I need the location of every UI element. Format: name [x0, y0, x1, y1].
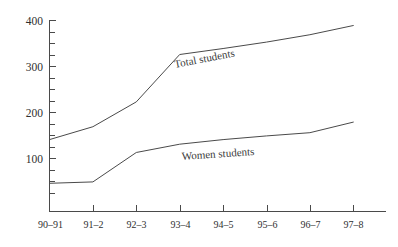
x-tick-label: 96–7 — [301, 219, 321, 230]
x-axis-tick-labels: 90–9191–292–393–494–595–696–797–8 — [38, 219, 364, 230]
x-tick-label: 90–91 — [38, 219, 63, 230]
x-tick-label: 92–3 — [127, 219, 147, 230]
series-label-total-students: Total students — [173, 46, 235, 69]
x-axis: 90–9191–292–393–494–595–696–797–8 — [38, 205, 386, 230]
y-axis-tick-labels: 100200300400 — [26, 15, 44, 165]
x-tick-label: 94–5 — [214, 219, 234, 230]
y-axis: 100200300400 — [26, 15, 56, 212]
x-tick-label: 95–6 — [258, 219, 278, 230]
line-chart: 100200300400 90–9191–292–393–494–595–696… — [0, 0, 398, 247]
y-tick-label: 400 — [26, 15, 44, 27]
y-tick-label: 200 — [26, 107, 44, 119]
chart-canvas: 100200300400 90–9191–292–393–494–595–696… — [0, 0, 398, 247]
x-tick-label: 93–4 — [171, 219, 191, 230]
x-tick-label: 97–8 — [344, 219, 364, 230]
series-annotation-group: Total studentsWomen students — [173, 46, 255, 162]
y-tick-label: 100 — [26, 153, 44, 165]
series-line-total-students — [50, 26, 354, 140]
series-label-women-students: Women students — [181, 145, 254, 162]
x-tick-label: 91–2 — [84, 219, 104, 230]
y-tick-label: 300 — [26, 61, 44, 73]
x-axis-ticks — [94, 205, 354, 212]
